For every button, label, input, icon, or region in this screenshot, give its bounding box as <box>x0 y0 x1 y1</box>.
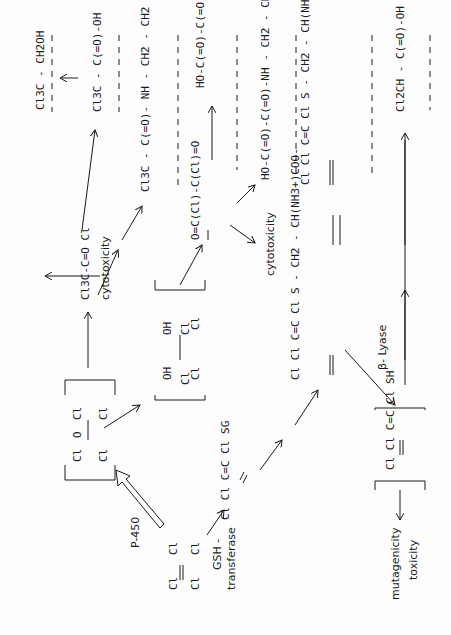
trichloroethanol: Cl3C - CH2OH <box>35 31 46 110</box>
trichloroacetyl-chloride: Cl3C-C=O Cl <box>80 227 91 300</box>
pce-cl-bot2: Cl <box>190 542 201 555</box>
glutathione-conjugate: Cl Cl C=C Cl SG <box>220 421 231 520</box>
oxalyl-chloride: O=C(Cl)-C(Cl)=O <box>190 141 201 240</box>
p450-label: P-450 <box>130 517 141 548</box>
oxalic-acid: HO-C(=O)-C(=O)-OH <box>195 0 206 88</box>
epoxide-cl4: Cl <box>98 407 109 420</box>
diol-oh2: OH <box>162 322 173 335</box>
n-acetylcysteine-conjugate: Cl Cl C=C Cl S - CH2 - CH(NHCOCH3)COOH <box>300 0 311 185</box>
toxicity-label: toxicity <box>408 540 419 580</box>
diol-oh1: OH <box>162 367 173 380</box>
dichloroacetic-acid: Cl2CH - C(=O)-OH <box>395 6 406 112</box>
epoxide-cl1: Cl <box>72 449 83 462</box>
beta-lyase-label: β- Lyase <box>377 325 388 370</box>
diol-cl2: Cl <box>190 367 201 380</box>
trichloroacetamide-ethanol: Cl3C - C(=O)- NH - CH2 - CH2 - OH <box>140 0 151 192</box>
thioketene-thiol: Cl Cl C=C Cl SH <box>385 371 396 470</box>
pathway-diagram: cytotoxicity cytotoxicity mutagenicity t… <box>0 0 451 635</box>
mutagenicity-label: mutagenicity <box>390 528 401 600</box>
trichloroacetic-acid: Cl3C - C(=O)-OH <box>92 13 103 112</box>
gsh-transferase-label-2: transferase <box>226 527 237 590</box>
pce-cl-top2: Cl <box>168 542 179 555</box>
epoxide-o: O <box>72 431 83 438</box>
oxamide-ethanol: HO-C(=O)-C(=O)-NH - CH2 - CH2 - OH <box>260 0 271 180</box>
pce-cl-top: Cl <box>168 577 179 590</box>
diol-cl4: Cl <box>190 317 201 330</box>
epoxide-cl3: Cl <box>98 449 109 462</box>
epoxide-cl2: Cl <box>72 407 83 420</box>
gsh-transferase-label-1: GSH - <box>212 539 223 570</box>
cytotoxicity-label-2: cytotoxicity <box>265 212 276 276</box>
pce-cl-bot: Cl <box>190 577 201 590</box>
cytotoxicity-label-1: cytotoxicity <box>100 236 111 300</box>
